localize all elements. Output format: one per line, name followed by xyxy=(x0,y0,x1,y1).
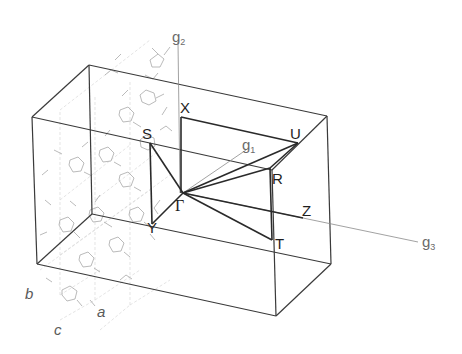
box-edge-bottom-right-depth xyxy=(276,264,331,316)
path-s-gamma xyxy=(150,143,183,193)
box-edge-back-bottom xyxy=(92,214,331,264)
point-labels: X S U R Γ Y Z T xyxy=(142,99,311,252)
label-z: Z xyxy=(302,202,311,219)
path-s-y xyxy=(150,143,152,224)
g1-axis xyxy=(183,150,246,193)
label-lattice-b: b xyxy=(25,285,33,302)
brillouin-zone-diagram: X S U R Γ Y Z T g2 g1 g3 b a c xyxy=(0,0,462,354)
box-edge-front-bottom xyxy=(37,264,276,316)
label-u: U xyxy=(290,125,301,142)
path-gamma-t xyxy=(183,193,272,240)
label-lattice-c: c xyxy=(54,321,62,338)
label-x: X xyxy=(180,99,190,116)
label-t: T xyxy=(275,235,284,252)
box-edge-back-left xyxy=(89,65,92,214)
g2-axis xyxy=(178,42,180,193)
lattice-labels: b a c xyxy=(25,285,105,338)
box-edge-bottom-left-depth xyxy=(37,214,92,264)
path-x-u xyxy=(181,117,298,143)
label-g3: g3 xyxy=(422,233,435,252)
label-lattice-a: a xyxy=(97,303,105,320)
reciprocal-axes xyxy=(178,42,418,242)
label-gamma: Γ xyxy=(175,197,184,214)
label-g1: g1 xyxy=(242,136,255,155)
path-gamma-z xyxy=(183,193,303,218)
path-gamma-r xyxy=(183,168,270,193)
box-edge-front-left xyxy=(32,117,37,264)
molecular-lattice-background xyxy=(40,40,172,330)
path-u-r xyxy=(270,143,298,168)
box-edge-back-right xyxy=(327,116,331,264)
label-y: Y xyxy=(147,219,157,236)
label-g2: g2 xyxy=(172,28,185,47)
label-s: S xyxy=(142,125,152,142)
label-r: R xyxy=(272,170,283,187)
